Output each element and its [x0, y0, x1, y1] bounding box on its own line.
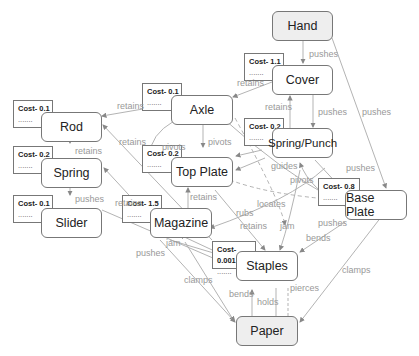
node-top-plate[interactable]: Top Plate — [171, 157, 233, 187]
node-paper[interactable]: Paper — [236, 316, 298, 346]
node-label: Staples — [246, 259, 288, 273]
node-label: Base Plate — [346, 191, 406, 219]
edge-label-base-plate-paper: clamps — [342, 265, 371, 275]
node-label: Axle — [190, 103, 214, 117]
node-spring-punch[interactable]: Spring/Punch — [272, 128, 333, 158]
edge-label-spring-punch-staples: pushes — [318, 218, 347, 228]
node-spring[interactable]: Spring — [41, 158, 102, 188]
edge-label-slider-staples: pushes — [136, 248, 165, 258]
edge-label-axle-base-plate: pivots — [290, 175, 314, 185]
edge-label-spring-slider: pushes — [75, 194, 104, 204]
edge-label-top-plate-base-plate: locates — [257, 199, 286, 209]
node-cover[interactable]: Cover — [272, 65, 333, 95]
node-staples[interactable]: Staples — [236, 251, 298, 281]
node-label: Cover — [286, 73, 319, 87]
node-label: Paper — [250, 324, 283, 338]
node-hand[interactable]: Hand — [272, 11, 333, 41]
edge-label-base-plate-spring-punch: jam — [280, 221, 295, 231]
node-label: Top Plate — [176, 165, 228, 179]
node-axle[interactable]: Axle — [171, 95, 233, 125]
edge-label-staples-paper-pierces: pierces — [290, 283, 319, 293]
node-label: Spring — [53, 166, 89, 180]
node-base-plate[interactable]: Base Plate — [345, 190, 407, 220]
node-label: Magazine — [154, 216, 208, 230]
edge-label-top-plate-staples: retains — [240, 221, 267, 231]
edge-label-base-plate-magazine: rubs — [236, 208, 254, 218]
edge-label-axle-top-plate-curve: pivots — [162, 142, 186, 152]
node-slider[interactable]: Slider — [41, 208, 102, 238]
edge-label-staples-magazine: jam — [166, 238, 181, 248]
edge-label-axle-top-plate: pivots — [208, 137, 232, 147]
edge-label-axle-rod: retains — [117, 101, 144, 111]
edge-label-spring-punch-base-plate: pushes — [346, 163, 375, 173]
node-rod[interactable]: Rod — [41, 112, 102, 142]
node-magazine[interactable]: Magazine — [150, 208, 212, 238]
edge-label-cover-axle: retains — [237, 78, 264, 88]
edge-label-magazine-spring: retains — [115, 198, 142, 208]
edge-label-spring-punch-top-plate: guides — [271, 161, 298, 171]
edge-label-staples-paper-holds: holds — [257, 297, 279, 307]
edge-label-base-plate-staples: bends — [306, 233, 331, 243]
edge-label-rod-spring: retains — [75, 146, 102, 156]
node-label: Spring/Punch — [268, 137, 337, 149]
edge-label-staples-rod: retains — [119, 137, 146, 147]
edge-label-magazine-paper: clamps — [184, 275, 213, 285]
edge-label-cover-spring-punch: pushes — [318, 107, 347, 117]
edge-label-paper-staples: bends — [229, 289, 254, 299]
node-label: Rod — [60, 120, 83, 134]
node-label: Hand — [288, 19, 318, 33]
edge-label-magazine-top-plate: retains — [190, 192, 217, 202]
node-label: Slider — [56, 216, 88, 230]
edge-label-hand-cover: pushes — [309, 49, 338, 59]
edge-label-spring-punch-cover: retains — [265, 102, 292, 112]
edge-label-hand-base-plate: pushes — [362, 107, 391, 117]
